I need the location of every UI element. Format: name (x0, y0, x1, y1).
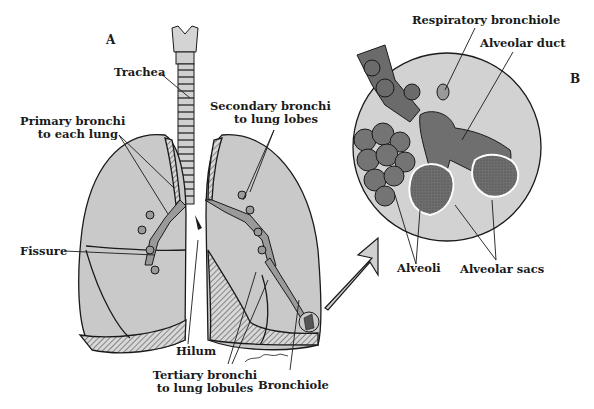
label-hilum: Hilum (176, 345, 216, 358)
label-alveoli: Alveoli (397, 262, 441, 275)
left-side-lung (79, 135, 186, 353)
label-alveolar-sacs: Alveolar sacs (460, 263, 544, 276)
label-respiratory-bronchiole: Respiratory bronchiole (412, 14, 560, 27)
label-secondary-bronchi-line2: to lung lobes (210, 113, 318, 126)
label-primary-bronchi: Primary bronchi to each lung (20, 115, 118, 141)
panel-label-a: A (106, 33, 115, 47)
label-secondary-bronchi: Secondary bronchi to lung lobes (210, 100, 318, 126)
hilum-arrow (195, 215, 202, 230)
label-alveolar-duct: Alveolar duct (480, 37, 566, 50)
label-tertiary-bronchi-line2: to lung lobules (150, 382, 260, 395)
label-fissure: Fissure (20, 245, 67, 258)
respiratory-diagram: A B Trachea Primary bronchi to each lung… (0, 0, 594, 409)
larynx (172, 26, 198, 64)
label-tertiary-bronchi: Tertiary bronchi to lung lobules (150, 369, 260, 395)
signature-scribble (245, 354, 288, 362)
magnify-arrow (325, 238, 378, 310)
label-primary-bronchi-line2: to each lung (20, 128, 118, 141)
label-bronchiole: Bronchiole (258, 379, 329, 392)
panel-label-b: B (570, 72, 580, 86)
label-trachea: Trachea (114, 66, 165, 79)
lung-illustration (0, 0, 594, 409)
